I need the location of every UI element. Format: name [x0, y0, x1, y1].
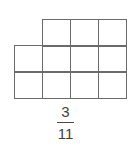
grid-cell[interactable]: [70, 19, 99, 47]
grid-cell[interactable]: [98, 19, 127, 47]
fraction-label: 3 11: [0, 104, 131, 141]
fraction-denominator: 11: [58, 125, 74, 141]
grid-cell[interactable]: [42, 71, 71, 99]
grid-cell[interactable]: [42, 19, 71, 47]
fraction-bar-icon: [57, 122, 74, 123]
grid-diagram: [0, 0, 131, 105]
grid-cell[interactable]: [14, 45, 43, 73]
fraction-figure: 3 11: [0, 0, 131, 150]
grid-cell[interactable]: [42, 45, 71, 73]
grid-cell[interactable]: [98, 45, 127, 73]
grid-row-top: [42, 19, 126, 47]
grid-row-middle: [14, 45, 126, 73]
grid-cell[interactable]: [70, 45, 99, 73]
grid-cell[interactable]: [70, 71, 99, 99]
fraction: 3 11: [57, 104, 74, 141]
fraction-numerator: 3: [61, 104, 69, 120]
grid-cell[interactable]: [14, 71, 43, 99]
grid-row-bottom: [14, 71, 126, 99]
grid-cell[interactable]: [98, 71, 127, 99]
